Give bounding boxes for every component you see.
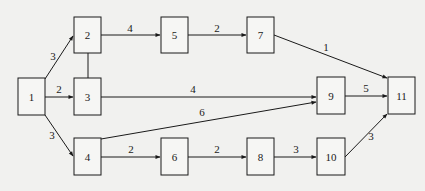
edge-4-9 [101, 102, 316, 139]
edge-weight-8-10: 3 [293, 143, 299, 155]
node-label: 9 [328, 90, 334, 102]
node-label: 1 [29, 91, 35, 103]
node-label: 2 [85, 29, 91, 41]
node-5: 5 [161, 17, 188, 53]
node-label: 4 [85, 151, 91, 163]
node-label: 6 [172, 151, 178, 163]
edge-1-2 [45, 36, 73, 79]
node-6: 6 [161, 138, 188, 175]
node-11: 11 [388, 77, 415, 114]
edge-weight-3-9: 4 [190, 83, 196, 95]
node-label: 10 [326, 151, 338, 163]
edge-weight-1-3: 2 [56, 83, 62, 95]
edge-weight-7-11: 1 [323, 41, 329, 53]
edge-7-11 [274, 35, 387, 78]
edge-weight-5-7: 2 [214, 22, 220, 34]
node-label: 5 [172, 29, 178, 41]
edge-weight-10-11: 3 [368, 130, 374, 142]
edge-weight-1-2: 3 [50, 50, 56, 62]
node-2: 2 [74, 17, 101, 53]
node-9: 9 [317, 77, 345, 114]
edge-weight-4-6: 2 [128, 143, 134, 155]
edge-10-11 [345, 114, 387, 157]
node-label: 8 [258, 151, 264, 163]
node-10: 10 [317, 138, 345, 175]
node-label: 11 [396, 90, 407, 102]
edge-weight-9-11: 5 [363, 82, 369, 94]
node-4: 4 [74, 138, 101, 175]
node-7: 7 [247, 17, 274, 53]
node-1: 1 [18, 78, 45, 115]
edge-weight-4-9: 6 [199, 106, 205, 118]
edge-weight-2-5: 4 [127, 22, 133, 34]
diagram-svg: 1234567891011 3234214652233 [0, 0, 425, 191]
node-label: 7 [258, 29, 264, 41]
node-3: 3 [74, 78, 101, 115]
node-label: 3 [85, 91, 91, 103]
network-diagram: 1234567891011 3234214652233 [0, 0, 425, 191]
edge-weight-6-8: 2 [214, 143, 220, 155]
node-8: 8 [247, 138, 274, 175]
edge-weight-1-4: 3 [49, 129, 55, 141]
